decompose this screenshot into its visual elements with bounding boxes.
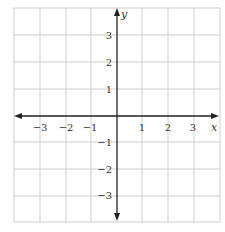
x-tick-label: −2 — [59, 122, 74, 133]
y-tick-label: −1 — [97, 137, 112, 148]
x-axis-label: x — [211, 121, 218, 134]
y-axis-label: y — [120, 8, 128, 21]
x-axis-right-arrow-icon — [211, 113, 219, 119]
y-tick-label: 2 — [106, 57, 112, 68]
coordinate-plane: −3 −2 −1 1 2 3 x 3 2 1 −1 −2 −3 y — [0, 0, 225, 232]
y-axis-down-arrow-icon — [114, 213, 120, 221]
x-tick-label: 2 — [165, 122, 171, 133]
x-tick-label: 3 — [190, 122, 196, 133]
x-axis-left-arrow-icon — [14, 113, 22, 119]
y-tick-label: −2 — [97, 164, 112, 175]
x-tick-label: 1 — [139, 122, 145, 133]
x-tick-label: −1 — [83, 122, 98, 133]
y-tick-label: 1 — [106, 84, 112, 95]
x-tick-label: −3 — [33, 122, 48, 133]
y-tick-label: −3 — [97, 190, 112, 201]
y-tick-label: 3 — [106, 30, 112, 41]
y-axis-up-arrow-icon — [114, 8, 120, 16]
